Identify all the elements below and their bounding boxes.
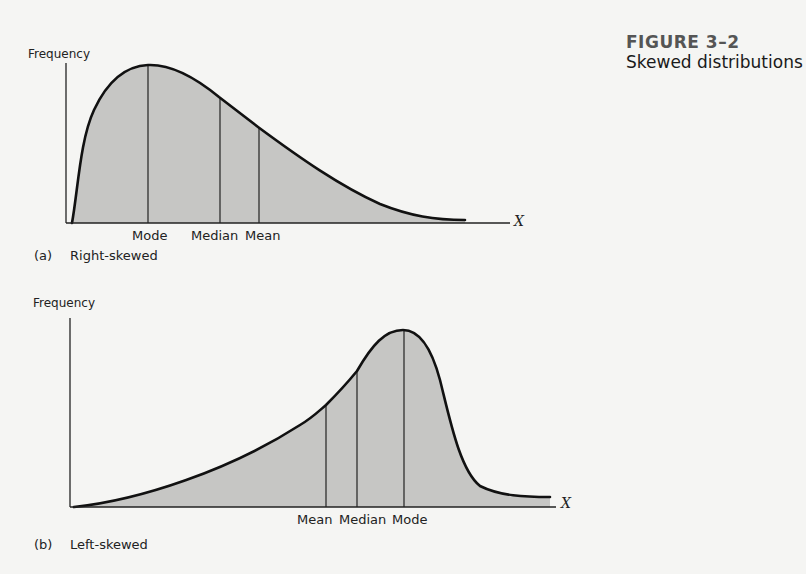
panel-a-mode-label: Mode — [132, 228, 167, 243]
panel-a-x-axis-label: X — [514, 213, 524, 229]
panel-b-caption: (b)Left-skewed — [34, 537, 148, 552]
panel-b-mode-label: Mode — [392, 512, 427, 527]
panel-a-area-fill — [72, 65, 465, 223]
figure-number: FIGURE 3–2 — [626, 32, 739, 52]
panel-b-mean-label: Mean — [297, 512, 332, 527]
panel-b-tag: (b) — [34, 537, 70, 552]
panel-a-median-label: Median — [191, 228, 238, 243]
panel-a-y-axis-label: Frequency — [28, 47, 90, 61]
panel-a-tag: (a) — [34, 248, 70, 263]
figure-title: Skewed distributions — [626, 52, 803, 72]
panel-a-caption-text: Right-skewed — [70, 248, 158, 263]
panel-b-left-skewed — [70, 318, 556, 507]
panel-a-caption: (a)Right-skewed — [34, 248, 158, 263]
panel-b-area-fill — [74, 330, 550, 507]
panel-b-caption-text: Left-skewed — [70, 537, 148, 552]
panel-b-median-label: Median — [339, 512, 386, 527]
panel-b-x-axis-label: X — [561, 495, 571, 511]
panel-a-mean-label: Mean — [245, 228, 280, 243]
panel-a-right-skewed — [66, 63, 510, 223]
panel-b-y-axis-label: Frequency — [33, 296, 95, 310]
figure-canvas — [0, 0, 806, 574]
